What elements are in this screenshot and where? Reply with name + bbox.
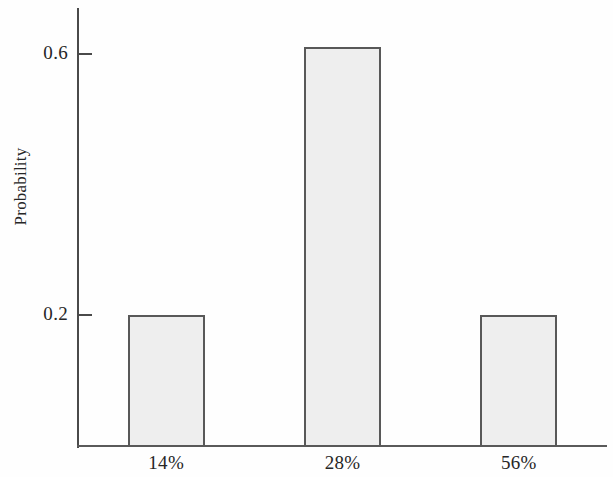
y-tick-label-1: 0.2 [6, 304, 68, 323]
x-tick-label-2: 56% [459, 452, 579, 474]
bar-2 [480, 315, 557, 447]
bar-1 [304, 47, 381, 447]
y-tick-mark-1 [79, 314, 92, 316]
y-axis-line [77, 8, 79, 448]
bar-0 [128, 315, 205, 447]
x-tick-label-0: 14% [106, 452, 226, 474]
y-tick-label-0: 0.6 [6, 43, 68, 62]
y-tick-0: 0.6 [0, 53, 92, 55]
y-axis-title: Probability [12, 127, 29, 247]
y-tick-1: 0.2 [0, 314, 92, 316]
x-tick-label-1: 28% [283, 452, 403, 474]
bar-chart-figure: Probability 0.6 0.2 14% 28% 56% [0, 0, 613, 477]
y-tick-mark-0 [79, 53, 92, 55]
